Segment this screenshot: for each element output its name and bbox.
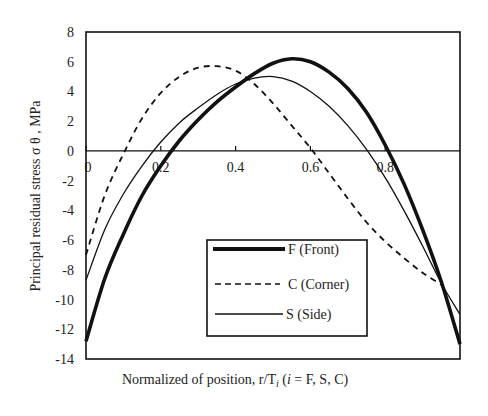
y-tick-label: -2 <box>62 174 74 189</box>
x-tick-label: 0.6 <box>302 160 320 175</box>
y-tick-label: -8 <box>62 263 74 278</box>
legend-label-corner: C (Corner) <box>288 277 349 293</box>
y-tick-label: 4 <box>67 84 74 99</box>
x-tick-label: 0.4 <box>227 160 245 175</box>
y-tick-label: 8 <box>67 25 74 40</box>
y-tick-label: 0 <box>67 144 74 159</box>
legend-label-front: F (Front) <box>288 242 339 258</box>
chart: 86420-2-4-6-8-10-12-14 00.20.40.60.8 F (… <box>0 0 488 416</box>
y-tick-label: -6 <box>62 233 74 248</box>
x-axis-label: Normalized of position, r/Ti (i = F, S, … <box>122 372 348 389</box>
y-tick-label: 6 <box>67 55 74 70</box>
legend-label-side: S (Side) <box>286 307 332 323</box>
y-axis-label: Principal residual stress σ θ , MPa <box>28 100 43 292</box>
y-tick-label: -12 <box>55 322 74 337</box>
y-axis-ticks: 86420-2-4-6-8-10-12-14 <box>55 25 74 367</box>
y-tick-label: -10 <box>55 293 74 308</box>
legend: F (Front) C (Corner) S (Side) <box>207 240 367 336</box>
y-tick-label: 2 <box>67 114 74 129</box>
y-tick-label: -14 <box>55 352 74 367</box>
y-tick-label: -4 <box>62 203 74 218</box>
